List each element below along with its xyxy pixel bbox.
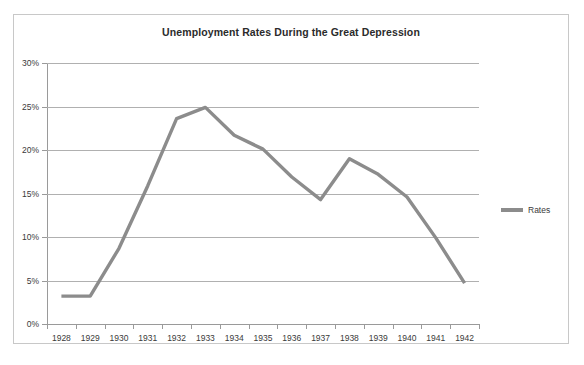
x-axis-label: 1929 [81, 333, 100, 343]
x-tick [277, 324, 278, 329]
x-tick [249, 324, 250, 329]
x-tick [105, 324, 106, 329]
x-tick [306, 324, 307, 329]
gridline-0% [47, 324, 479, 325]
x-axis-label: 1931 [138, 333, 157, 343]
x-axis-label: 1941 [426, 333, 445, 343]
y-axis-label: 30% [22, 58, 39, 68]
x-tick [421, 324, 422, 329]
x-axis-label: 1936 [282, 333, 301, 343]
y-axis-label: 10% [22, 232, 39, 242]
x-tick [450, 324, 451, 329]
x-tick [393, 324, 394, 329]
x-axis-label: 1939 [369, 333, 388, 343]
x-tick [133, 324, 134, 329]
x-axis-label: 1934 [225, 333, 244, 343]
y-axis-label: 25% [22, 102, 39, 112]
x-axis-label: 1940 [398, 333, 417, 343]
y-axis-label: 20% [22, 145, 39, 155]
chart-frame: Unemployment Rates During the Great Depr… [13, 14, 569, 344]
y-axis-label: 15% [22, 189, 39, 199]
series-line-rates [47, 63, 479, 324]
x-axis-label: 1935 [254, 333, 273, 343]
data-line-rates [61, 107, 464, 296]
x-tick [47, 324, 48, 329]
x-axis-label: 1937 [311, 333, 330, 343]
chart-title: Unemployment Rates During the Great Depr… [14, 26, 568, 38]
x-axis-label: 1933 [196, 333, 215, 343]
x-tick [220, 324, 221, 329]
x-tick [335, 324, 336, 329]
y-axis-label: 0% [27, 319, 39, 329]
x-tick [479, 324, 480, 329]
chart-legend: Rates [501, 205, 550, 215]
x-axis-label: 1928 [52, 333, 71, 343]
y-axis-label: 5% [27, 276, 39, 286]
legend-swatch-rates [501, 208, 523, 212]
x-axis-label: 1938 [340, 333, 359, 343]
plot-area: 0%5%10%15%20%25%30% 19281929193019311932… [47, 63, 479, 324]
x-axis-label: 1930 [110, 333, 129, 343]
x-axis-label: 1942 [455, 333, 474, 343]
x-tick [162, 324, 163, 329]
x-tick [191, 324, 192, 329]
legend-label-rates: Rates [528, 205, 550, 215]
x-tick [76, 324, 77, 329]
x-tick [364, 324, 365, 329]
x-axis-label: 1932 [167, 333, 186, 343]
